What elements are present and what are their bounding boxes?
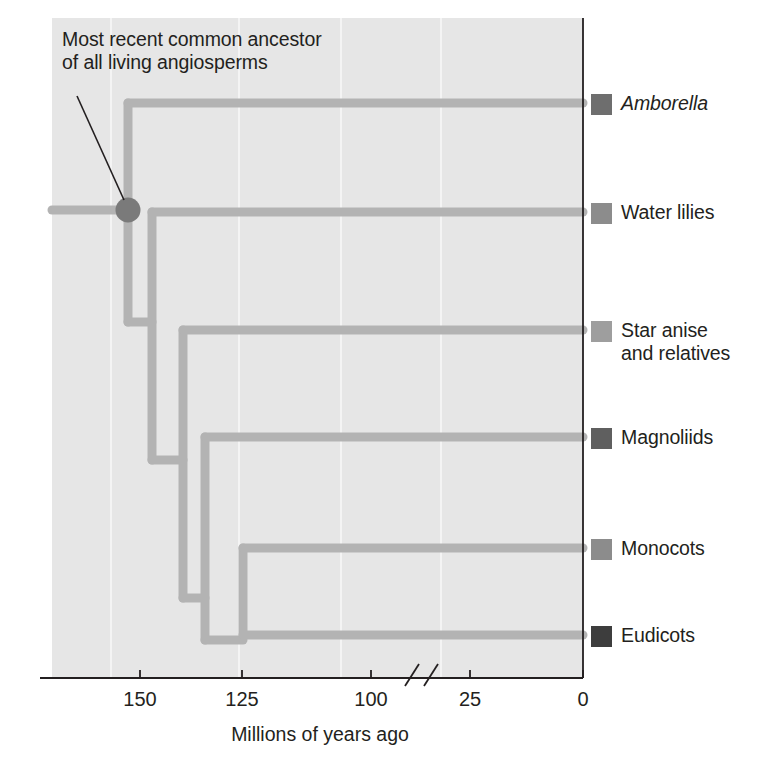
tip-text-magnoliids: Magnoliids <box>621 426 713 449</box>
tip-text-amborella: Amborella <box>621 92 708 115</box>
mrca-node-marker <box>116 198 141 223</box>
tip-label-eudicots: Eudicots <box>591 624 695 647</box>
swatch-monocots <box>591 539 612 560</box>
tick-label-0: 0 <box>577 688 588 711</box>
tree-drawing <box>0 0 773 784</box>
x-axis-title: Millions of years ago <box>0 723 640 746</box>
swatch-eudicots <box>591 626 612 647</box>
tip-label-monocots: Monocots <box>591 537 705 560</box>
tick-label-150: 150 <box>123 688 156 711</box>
tip-label-magnoliids: Magnoliids <box>591 426 713 449</box>
tip-text-eudicots: Eudicots <box>621 624 695 647</box>
tick-label-100: 100 <box>354 688 387 711</box>
swatch-magnoliids <box>591 428 612 449</box>
annotation-leader-line <box>77 96 124 200</box>
mrca-annotation-label: Most recent common ancestor of all livin… <box>62 28 322 74</box>
tip-label-water-lilies: Water lilies <box>591 201 714 224</box>
tick-label-125: 125 <box>225 688 258 711</box>
swatch-water-lilies <box>591 203 612 224</box>
tip-text-star-anise: Star anise and relatives <box>621 319 730 364</box>
tip-label-star-anise: Star anise and relatives <box>591 319 730 364</box>
swatch-amborella <box>591 94 612 115</box>
x-axis-ticks <box>140 670 583 678</box>
swatch-star-anise <box>591 321 612 342</box>
tick-label-25: 25 <box>459 688 481 711</box>
axis-break-icon <box>405 664 438 686</box>
phylogenetic-tree-figure: Most recent common ancestor of all livin… <box>0 0 773 784</box>
tip-label-amborella: Amborella <box>591 92 708 115</box>
tree-branches <box>52 103 583 640</box>
tip-text-monocots: Monocots <box>621 537 705 560</box>
tip-text-water-lilies: Water lilies <box>621 201 714 224</box>
